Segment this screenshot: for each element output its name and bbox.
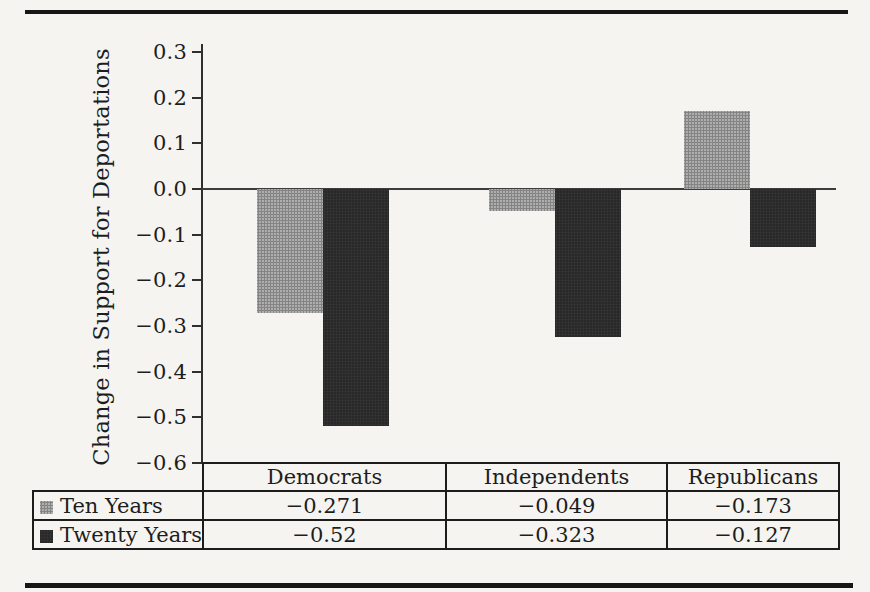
legend-swatch-twenty-years bbox=[40, 530, 53, 543]
bar-twenty-years-democrats bbox=[323, 189, 389, 426]
y-tick-mark bbox=[192, 371, 202, 373]
legend-cell-twenty-years: Twenty Years bbox=[33, 520, 203, 549]
y-tick-label: 0.1 bbox=[121, 131, 187, 155]
y-tick-mark bbox=[192, 142, 202, 144]
data-table-wrap: DemocratsIndependentsRepublicansTen Year… bbox=[32, 462, 838, 550]
legend-label-twenty-years: Twenty Years bbox=[60, 523, 202, 547]
y-tick-mark bbox=[192, 416, 202, 418]
y-tick-mark bbox=[192, 279, 202, 281]
table-row-twenty-years: Twenty Years−0.52−0.323−0.127 bbox=[33, 520, 839, 549]
y-tick-label: −0.5 bbox=[121, 405, 187, 429]
y-tick-label: −0.2 bbox=[121, 268, 187, 292]
table-header-independents: Independents bbox=[446, 463, 667, 491]
bar-twenty-years-republicans bbox=[750, 189, 816, 247]
y-tick-label: −0.4 bbox=[121, 360, 187, 384]
bar-twenty-years-independents bbox=[555, 189, 621, 337]
bottom-rule bbox=[25, 583, 853, 588]
value-cell-twenty-years-democrats: −0.52 bbox=[203, 520, 446, 549]
bar-ten-years-independents bbox=[489, 189, 555, 211]
legend-label-ten-years: Ten Years bbox=[60, 494, 163, 518]
y-tick-label: −0.1 bbox=[121, 223, 187, 247]
y-tick-label: 0.2 bbox=[121, 86, 187, 110]
table-corner-ghost bbox=[33, 463, 203, 491]
legend-cell-ten-years: Ten Years bbox=[33, 491, 203, 520]
y-tick-label: 0.3 bbox=[121, 40, 187, 64]
value-cell-twenty-years-independents: −0.323 bbox=[446, 520, 667, 549]
bar-ten-years-republicans bbox=[684, 111, 750, 189]
table-header-democrats: Democrats bbox=[203, 463, 446, 491]
y-tick-mark bbox=[192, 188, 202, 190]
value-cell-ten-years-republicans: −0.173 bbox=[667, 491, 839, 520]
y-tick-label: 0.0 bbox=[121, 177, 187, 201]
y-tick-mark bbox=[192, 234, 202, 236]
y-tick-mark bbox=[192, 325, 202, 327]
y-tick-mark bbox=[192, 51, 202, 53]
value-cell-ten-years-independents: −0.049 bbox=[446, 491, 667, 520]
bar-ten-years-democrats bbox=[257, 189, 323, 313]
y-tick-mark bbox=[192, 97, 202, 99]
legend-swatch-ten-years bbox=[40, 501, 53, 514]
table-row-ten-years: Ten Years−0.271−0.049−0.173 bbox=[33, 491, 839, 520]
top-rule bbox=[25, 10, 848, 14]
table-header-republicans: Republicans bbox=[667, 463, 839, 491]
figure: Change in Support for Deportations 0.30.… bbox=[0, 0, 870, 592]
data-table: DemocratsIndependentsRepublicansTen Year… bbox=[32, 462, 840, 550]
value-cell-twenty-years-republicans: −0.127 bbox=[667, 520, 839, 549]
y-tick-label: −0.3 bbox=[121, 314, 187, 338]
y-axis-title: Change in Support for Deportations bbox=[88, 48, 114, 465]
value-cell-ten-years-democrats: −0.271 bbox=[203, 491, 446, 520]
y-axis-line bbox=[201, 44, 203, 463]
